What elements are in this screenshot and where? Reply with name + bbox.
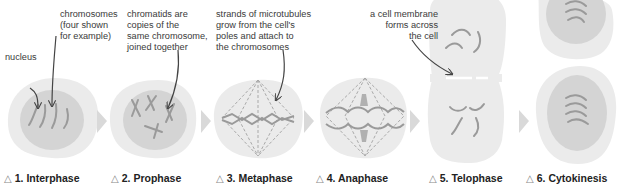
stage-label-prophase: △2. Prophase [111, 172, 181, 184]
cell-cytokinesis-top [538, 0, 613, 59]
triangle-icon: △ [111, 173, 119, 184]
stage-label-interphase: △1. Interphase [4, 172, 80, 184]
cell-anaphase [320, 78, 407, 159]
cell-telophase [428, 0, 506, 163]
nucleus [547, 75, 607, 151]
triangle-icon: △ [526, 173, 534, 184]
stage-arrow-icon [410, 110, 420, 133]
stage-arrow-icon [304, 110, 314, 133]
stage-arrow-icon [519, 110, 529, 133]
annotation-membrane: a cell membrane forms across the cell [346, 9, 438, 42]
triangle-icon: △ [429, 173, 437, 184]
annotation-chromosomes: chromosomes (four shown for example) [60, 9, 118, 42]
cell-metaphase [214, 80, 303, 159]
stage-arrow-icon [201, 110, 211, 133]
triangle-icon: △ [4, 173, 12, 184]
stage-label-cytokinesis: △6. Cytokinesis [526, 172, 607, 184]
triangle-icon: △ [216, 173, 224, 184]
stage-label-anaphase: △4. Anaphase [316, 172, 388, 184]
cell-interphase [8, 78, 98, 158]
stage-label-telophase: △5. Telophase [429, 172, 503, 184]
triangle-icon: △ [316, 173, 324, 184]
mitosis-diagram: nucleus chromosomes (four shown for exam… [0, 0, 617, 185]
annotation-nucleus: nucleus [5, 52, 37, 63]
annotation-chromatids: chromatids are copies of the same chromo… [127, 9, 208, 53]
stage-label-metaphase: △3. Metaphase [216, 172, 293, 184]
stage-arrow-icon [97, 110, 107, 133]
cell-cytokinesis-bottom [536, 66, 616, 164]
cell-prophase [110, 80, 196, 158]
annotation-microtubules: strands of microtubules grow from the ce… [216, 9, 311, 53]
